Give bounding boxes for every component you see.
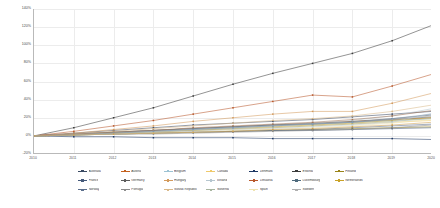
legend-item-belgium[interactable]: Belgium bbox=[164, 167, 207, 176]
legend-item-portugal[interactable]: Portugal bbox=[121, 185, 164, 194]
data-point-marker bbox=[192, 137, 194, 139]
data-point-marker bbox=[272, 123, 274, 125]
data-point-marker bbox=[391, 40, 393, 42]
legend-item-lithuania[interactable]: Lithuania bbox=[249, 176, 292, 185]
y-axis-tick-label: 120% bbox=[0, 25, 31, 29]
legend-label: Slovenia bbox=[217, 188, 229, 191]
data-point-marker bbox=[391, 124, 393, 126]
legend-label: Slovak Republic bbox=[174, 188, 197, 191]
legend-item-canada[interactable]: Canada bbox=[206, 167, 249, 176]
data-point-marker bbox=[192, 113, 194, 115]
data-point-marker bbox=[153, 120, 155, 122]
data-point-marker bbox=[113, 117, 115, 119]
legend-item-slovak-republic[interactable]: Slovak Republic bbox=[164, 185, 207, 194]
data-point-marker bbox=[312, 94, 314, 96]
legend-item-luxembourg[interactable]: Luxembourg bbox=[292, 176, 335, 185]
data-point-marker bbox=[192, 127, 194, 129]
data-point-marker bbox=[153, 132, 155, 134]
series-line bbox=[34, 25, 431, 136]
data-point-marker bbox=[232, 129, 234, 131]
legend-marker-icon bbox=[206, 178, 215, 183]
data-point-marker bbox=[352, 124, 354, 126]
data-point-marker bbox=[391, 113, 393, 115]
data-point-marker bbox=[272, 101, 274, 103]
data-point-marker bbox=[391, 85, 393, 87]
legend-marker-icon bbox=[164, 178, 173, 183]
legend-item-germany[interactable]: Germany bbox=[121, 176, 164, 185]
data-point-marker bbox=[352, 53, 354, 55]
data-point-marker bbox=[232, 122, 234, 124]
data-point-marker bbox=[192, 132, 194, 134]
legend-label: Portugal bbox=[131, 188, 143, 191]
legend-label: Spain bbox=[260, 188, 268, 191]
data-point-marker bbox=[192, 125, 194, 127]
legend-marker-icon bbox=[164, 187, 173, 192]
legend-label: Belgium bbox=[174, 170, 186, 173]
chart-legend: AustraliaAustriaBelgiumCanadaDenmarkEsto… bbox=[78, 167, 378, 195]
data-point-marker bbox=[352, 111, 354, 113]
legend-label: Denmark bbox=[260, 170, 273, 173]
legend-label: Netherlands bbox=[345, 179, 362, 182]
legend-marker-icon bbox=[206, 169, 215, 174]
legend-item-hungary[interactable]: Hungary bbox=[164, 176, 207, 185]
legend-item-slovenia[interactable]: Slovenia bbox=[206, 185, 249, 194]
legend-item-finland[interactable]: Finland bbox=[335, 167, 378, 176]
data-point-marker bbox=[272, 129, 274, 131]
legend-item-netherlands[interactable]: Netherlands bbox=[335, 176, 378, 185]
x-axis-tick-label: 2014 bbox=[188, 157, 196, 160]
plot-inner bbox=[34, 9, 431, 153]
legend-label: Australia bbox=[89, 170, 101, 173]
data-point-marker bbox=[312, 130, 314, 132]
y-axis-tick-label: 20% bbox=[0, 116, 31, 120]
legend-item-iceland[interactable]: Iceland bbox=[206, 176, 249, 185]
legend-item-estonia[interactable]: Estonia bbox=[292, 167, 335, 176]
data-point-marker bbox=[153, 131, 155, 133]
data-point-marker bbox=[34, 135, 35, 137]
legend-item-spain[interactable]: Spain bbox=[249, 185, 292, 194]
legend-marker-icon bbox=[78, 178, 87, 183]
data-point-marker bbox=[272, 120, 274, 122]
legend-marker-icon bbox=[121, 187, 130, 192]
legend-marker-icon bbox=[121, 178, 130, 183]
data-point-marker bbox=[352, 129, 354, 131]
data-point-marker bbox=[312, 63, 314, 65]
legend-label: Sweden bbox=[302, 188, 314, 191]
x-axis-tick-label: 2011 bbox=[69, 157, 76, 160]
data-point-marker bbox=[73, 134, 75, 136]
data-point-marker bbox=[312, 126, 314, 128]
plot-area bbox=[33, 9, 431, 154]
y-axis-tick-label: -20% bbox=[0, 152, 31, 156]
legend-item-austria[interactable]: Austria bbox=[121, 167, 164, 176]
legend-label: Canada bbox=[217, 170, 228, 173]
legend-marker-icon bbox=[249, 178, 258, 183]
data-point-marker bbox=[192, 95, 194, 97]
x-axis-tick-label: 2018 bbox=[348, 157, 356, 160]
legend-item-norway[interactable]: Norway bbox=[78, 185, 121, 194]
data-point-marker bbox=[312, 123, 314, 125]
data-point-marker bbox=[232, 125, 234, 127]
data-point-marker bbox=[312, 128, 314, 130]
legend-item-sweden[interactable]: Sweden bbox=[292, 185, 335, 194]
data-point-marker bbox=[391, 138, 393, 140]
data-point-marker bbox=[352, 119, 354, 121]
data-point-marker bbox=[272, 138, 274, 140]
data-point-marker bbox=[153, 137, 155, 139]
legend-marker-icon bbox=[78, 169, 87, 174]
data-point-marker bbox=[352, 96, 354, 98]
legend-marker-icon bbox=[78, 187, 87, 192]
chart-container: 140%120%100%80%60%40%20%0%-20% 201020112… bbox=[0, 0, 440, 208]
series-denmark bbox=[34, 135, 431, 140]
data-point-marker bbox=[312, 138, 314, 140]
data-point-marker bbox=[232, 117, 234, 119]
data-point-marker bbox=[391, 127, 393, 129]
legend-item-denmark[interactable]: Denmark bbox=[249, 167, 292, 176]
legend-item-australia[interactable]: Australia bbox=[78, 167, 121, 176]
data-point-marker bbox=[391, 103, 393, 105]
legend-item-france[interactable]: France bbox=[78, 176, 121, 185]
data-point-marker bbox=[312, 111, 314, 113]
legend-label: Austria bbox=[131, 170, 141, 173]
legend-marker-icon bbox=[206, 187, 215, 192]
data-point-marker bbox=[192, 129, 194, 131]
data-point-marker bbox=[73, 127, 75, 129]
x-axis-tick-label: 2010 bbox=[29, 157, 37, 160]
